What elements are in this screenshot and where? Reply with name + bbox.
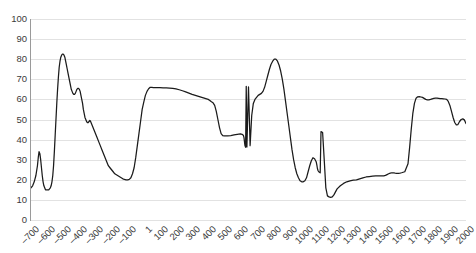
- chart-container: 0102030405060708090100 –700–600–500–400–…: [0, 0, 476, 253]
- x-tick-label-700: 700: [248, 224, 266, 242]
- y-tick-label-20: 20: [1, 175, 27, 185]
- y-tick-label-50: 50: [1, 115, 27, 125]
- y-tick-label-90: 90: [1, 34, 27, 44]
- y-axis-tick-labels: 0102030405060708090100: [0, 0, 27, 253]
- plot-area: [31, 19, 466, 220]
- y-tick-label-30: 30: [1, 155, 27, 165]
- y-tick-label-40: 40: [1, 135, 27, 145]
- y-tick-label-100: 100: [1, 14, 27, 24]
- x-axis-tick-labels: –700–600–500–400–300–200–100110020030040…: [0, 220, 476, 253]
- y-tick-label-80: 80: [1, 54, 27, 64]
- x-tick-label-2000: 2000: [454, 224, 476, 246]
- y-tick-label-10: 10: [1, 195, 27, 205]
- y-tick-label-60: 60: [1, 94, 27, 104]
- y-tick-label-70: 70: [1, 74, 27, 84]
- x-tick-label-600: 600: [232, 224, 250, 242]
- line-series-svg: [31, 19, 466, 220]
- line-series-path: [31, 54, 466, 197]
